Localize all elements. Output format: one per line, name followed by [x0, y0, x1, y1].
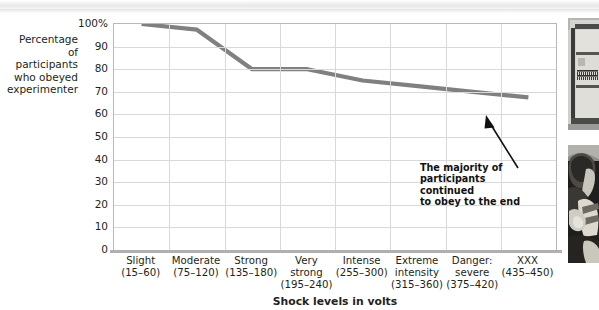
x-tick-label-line: (135–180): [224, 267, 279, 279]
y-tick-label: 60: [95, 108, 108, 118]
y-axis-title-l4: experimenter: [4, 83, 78, 96]
x-tick-label-line: severe: [445, 267, 500, 279]
x-tick-label-line: (315–360): [389, 279, 444, 291]
x-tick-label-line: Slight: [113, 255, 168, 267]
x-tick-label: Moderate(75–120): [168, 255, 223, 279]
gridline-vertical: [169, 24, 170, 250]
shock-generator-photo: [568, 18, 599, 130]
y-tick-label: 70: [95, 86, 108, 96]
y-tick-label: 40: [95, 154, 108, 164]
x-tick-label: Slight(15–60): [113, 255, 168, 279]
gridline-vertical: [280, 24, 281, 250]
y-tick-label: 50: [95, 131, 108, 141]
x-tick-label: Extremeintensity(315–360): [389, 255, 444, 292]
x-tick-label-line: Moderate: [168, 255, 223, 267]
y-tick-label: 80: [95, 63, 108, 73]
y-axis-title-l3: who obeyed: [4, 71, 78, 84]
x-tick-label-line: Extreme: [389, 255, 444, 267]
y-tick-label: 100%: [78, 18, 108, 28]
x-tick-label-line: (75–120): [168, 267, 223, 279]
gridline-vertical: [390, 24, 391, 250]
y-axis-title: Percentage of participants who obeyed ex…: [4, 33, 78, 96]
y-tick-label: 20: [95, 199, 108, 209]
x-tick-label-line: (255–300): [334, 267, 389, 279]
x-tick-label-line: (195–240): [279, 279, 334, 291]
y-tick-label: 90: [95, 41, 108, 51]
annotation-arrow-icon: [480, 112, 530, 170]
x-tick-label-line: Danger:: [445, 255, 500, 267]
y-tick-label: 30: [95, 176, 108, 186]
annotation-line-3: to obey to the end: [420, 196, 540, 207]
x-tick-label-line: strong: [279, 267, 334, 279]
x-tick-label-line: Intense: [334, 255, 389, 267]
learner-strapped-photo: [568, 145, 599, 263]
x-tick-label: XXX(435–450): [500, 255, 555, 279]
x-tick-label-line: intensity: [389, 267, 444, 279]
x-tick-label: Strong(135–180): [224, 255, 279, 279]
y-axis-title-l2: of participants: [4, 46, 78, 71]
x-tick-label-line: (15–60): [113, 267, 168, 279]
x-tick-label: Intense(255–300): [334, 255, 389, 279]
x-tick-label-line: Very: [279, 255, 334, 267]
y-axis-title-l1: Percentage: [4, 33, 78, 46]
gridline-vertical: [225, 24, 226, 250]
x-tick-label: Danger:severe(375–420): [445, 255, 500, 292]
x-tick-label-line: (375–420): [445, 279, 500, 291]
x-tick-label-line: Strong: [224, 255, 279, 267]
y-tick-label: 0: [101, 244, 108, 254]
x-tick-label: Verystrong(195–240): [279, 255, 334, 292]
x-tick-label-line: (435–450): [500, 267, 555, 279]
x-axis-line: [110, 250, 562, 253]
x-axis-title: Shock levels in volts: [113, 295, 557, 308]
y-axis-tick-labels: 0102030405060708090100%: [78, 0, 108, 310]
x-tick-label-line: XXX: [500, 255, 555, 267]
annotation-line-2: participants continued: [420, 173, 540, 196]
gridline-vertical: [335, 24, 336, 250]
gridline-vertical: [446, 24, 447, 250]
y-tick-label: 10: [95, 221, 108, 231]
